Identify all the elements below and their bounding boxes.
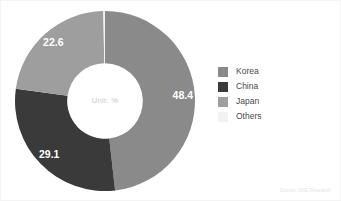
legend-label: China (236, 81, 258, 92)
legend-swatch-others (218, 112, 228, 122)
donut-chart: 48.429.122.6 Unit: % (12, 8, 198, 194)
legend-label: Korea (236, 66, 259, 77)
slice-value-label-korea: 48.4 (173, 89, 194, 101)
center-unit-label: Unit: % (92, 96, 118, 105)
legend-label: Japan (236, 96, 259, 107)
slice-value-label-china: 29.1 (39, 148, 60, 160)
chart-figure: 48.429.122.6 Unit: % KoreaChinaJapanOthe… (0, 0, 341, 201)
legend-swatch-japan (218, 97, 228, 107)
legend-item-japan[interactable]: Japan (218, 94, 328, 109)
legend-item-others[interactable]: Others (218, 109, 328, 124)
legend-swatch-china (218, 82, 228, 92)
legend-swatch-korea (218, 67, 228, 77)
legend-item-korea[interactable]: Korea (218, 64, 328, 79)
legend-label: Others (236, 111, 262, 122)
legend-item-china[interactable]: China (218, 79, 328, 94)
slice-value-label-japan: 22.6 (43, 36, 64, 48)
pie-slice-japan[interactable] (16, 11, 104, 96)
donut-svg: 48.429.122.6 Unit: % (12, 8, 198, 194)
chart-legend: KoreaChinaJapanOthers (218, 64, 328, 124)
source-credit: Source: SNE Research (280, 188, 332, 193)
